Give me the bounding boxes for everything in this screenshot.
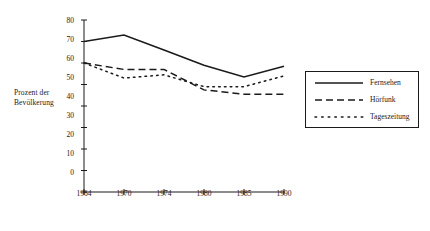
series-line-fernsehen: [84, 35, 284, 77]
legend-label-hoerfunk: Hörfunk: [370, 95, 395, 105]
legend-item-hoerfunk: Hörfunk: [306, 92, 420, 108]
series-line-h-rfunk: [84, 63, 284, 94]
legend-swatch-dotted: [313, 109, 365, 125]
legend: Fernsehen Hörfunk Tageszeitung: [305, 71, 419, 128]
legend-item-fernsehen: Fernsehen: [306, 75, 420, 91]
legend-label-fernsehen: Fernsehen: [370, 78, 401, 88]
legend-swatch-solid: [313, 75, 365, 91]
data-series-layer: [84, 35, 284, 94]
chart-figure: Prozent der Bevölkerung 80 70 60 50 40 3…: [0, 0, 430, 231]
legend-swatch-dashed: [313, 92, 365, 108]
axis-lines: [84, 20, 284, 192]
legend-label-tageszeitung: Tageszeitung: [370, 112, 409, 122]
legend-item-tageszeitung: Tageszeitung: [306, 109, 420, 125]
